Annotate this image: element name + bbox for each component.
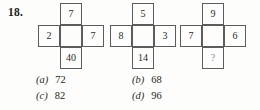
question-number: 18. <box>8 6 23 18</box>
cross-3-left-cell: 7 <box>180 25 202 47</box>
option-b-letter: (b) <box>132 74 144 85</box>
option-c[interactable]: (c)82 <box>36 90 65 101</box>
option-d[interactable]: (d)96 <box>132 90 162 101</box>
cross-1-left-cell: 2 <box>38 25 60 47</box>
cross-2-center-cell <box>132 25 154 47</box>
cross-3-center-cell <box>202 25 224 47</box>
cross-1-right-cell: 7 <box>82 25 104 47</box>
cross-figure-2: 5 8 3 14 <box>110 2 178 71</box>
cross-figure-3: 9 7 6 ? <box>180 2 248 71</box>
question-page: 18. 7 2 7 40 5 8 3 14 9 7 6 ? <box>0 0 260 110</box>
cross-3-right-cell: 6 <box>224 25 246 47</box>
cross-3-top-cell: 9 <box>202 3 224 25</box>
cross-1-top-cell: 7 <box>60 3 82 25</box>
option-c-value: 82 <box>55 90 66 101</box>
answer-options: (a)72 (b)68 (c)82 (d)96 <box>36 74 236 106</box>
figure-group: 7 2 7 40 5 8 3 14 9 7 6 ? <box>38 2 253 72</box>
option-a-value: 72 <box>55 74 66 85</box>
option-row-2: (c)82 (d)96 <box>36 90 236 106</box>
option-a[interactable]: (a)72 <box>36 74 66 85</box>
cross-3-bottom-cell-unknown: ? <box>202 47 224 69</box>
cross-1-bottom-cell: 40 <box>60 47 82 69</box>
option-d-letter: (d) <box>132 90 144 101</box>
cross-2-right-cell: 3 <box>154 25 176 47</box>
cross-2-bottom-cell: 14 <box>132 47 154 69</box>
option-c-letter: (c) <box>36 90 48 101</box>
cross-2-left-cell: 8 <box>110 25 132 47</box>
option-a-letter: (a) <box>36 74 48 85</box>
cross-2-top-cell: 5 <box>132 3 154 25</box>
option-d-value: 96 <box>151 90 162 101</box>
option-row-1: (a)72 (b)68 <box>36 74 236 90</box>
cross-figure-1: 7 2 7 40 <box>38 2 106 71</box>
option-b[interactable]: (b)68 <box>132 74 162 85</box>
option-b-value: 68 <box>151 74 162 85</box>
cross-1-center-cell <box>60 25 82 47</box>
